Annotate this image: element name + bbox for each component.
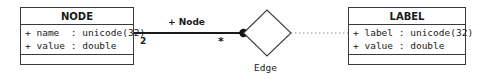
connector-layer xyxy=(0,0,481,79)
association-role-label: + Node xyxy=(168,17,205,27)
association-class-name: Edge xyxy=(254,62,277,73)
multiplicity-source: 2 xyxy=(140,36,146,46)
uml-class-diagram: NODE + name : unicode(32) + value : doub… xyxy=(0,0,481,79)
multiplicity-target: * xyxy=(218,35,224,48)
association-class-diamond-icon[interactable] xyxy=(244,10,292,56)
